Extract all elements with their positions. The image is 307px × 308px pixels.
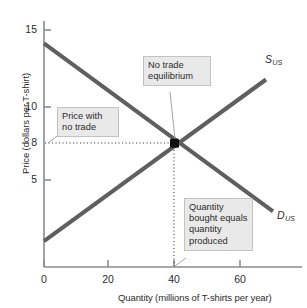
demand-curve-label-base: D — [277, 209, 285, 221]
equilibrium-marker — [170, 139, 179, 148]
supply-curve-label: SUS — [265, 53, 282, 65]
annotation-quantity-bought-equals-quantity-produced: Quantity bought equals quantity produced — [184, 198, 253, 251]
y-tick-label-15: 15 — [15, 23, 37, 35]
leader-no-trade-equilibrium — [170, 92, 175, 139]
leader-price-no-trade — [48, 136, 57, 143]
x-tick-label-60: 60 — [227, 273, 253, 285]
annotation-no-trade-equilibrium: No trade equilibrium — [143, 56, 211, 86]
x-tick-label-20: 20 — [95, 273, 121, 285]
supply-curve-label-subscript: US — [272, 58, 282, 67]
y-tick-label-8: 8 — [15, 136, 37, 148]
leader-quantity-equal — [175, 258, 186, 266]
plot-area — [0, 0, 307, 308]
demand-curve-label-subscript: US — [285, 214, 295, 223]
x-tick-label-0: 0 — [31, 273, 57, 285]
annotation-price-with-no-trade: Price with no trade — [57, 107, 119, 137]
chart-container: Price (dollars per T-shirt) Quantity (mi… — [0, 0, 307, 308]
y-tick-label-10: 10 — [15, 100, 37, 112]
x-tick-label-40: 40 — [161, 273, 187, 285]
y-tick-label-5: 5 — [15, 173, 37, 185]
x-axis-title: Quantity (millions of T-shirts per year) — [118, 292, 272, 303]
demand-curve-label: DUS — [277, 209, 295, 221]
supply-curve-label-base: S — [265, 53, 272, 65]
